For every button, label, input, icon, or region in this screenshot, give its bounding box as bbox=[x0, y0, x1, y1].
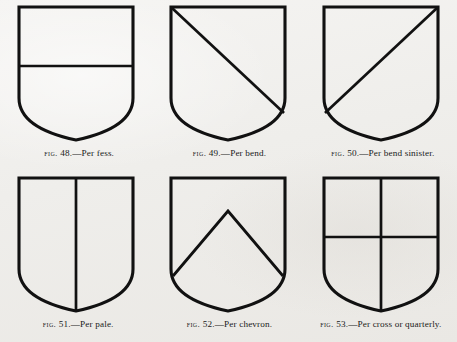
shield-per-bend-sinister-drawing bbox=[310, 0, 452, 147]
figure-51-number-block: 51.—Per pale. bbox=[56, 319, 113, 329]
figure-48-separator: .— bbox=[70, 148, 82, 158]
figure-52-caption: Fig. 52.—Per chevron. bbox=[185, 319, 273, 329]
figure-49-number: 49 bbox=[209, 148, 219, 158]
shield-per-pale-drawing bbox=[5, 171, 147, 318]
figure-51: Fig. 51.—Per pale. bbox=[0, 171, 152, 342]
figure-52-separator: .— bbox=[212, 319, 224, 329]
figure-49-name: Per bend. bbox=[230, 148, 266, 158]
figure-50-name: Per bend sinister. bbox=[369, 148, 435, 158]
figure-52-number: 52 bbox=[203, 319, 213, 329]
figure-53-separator: .— bbox=[346, 319, 358, 329]
figure-51-separator: .— bbox=[68, 319, 80, 329]
figure-51-number: 51 bbox=[59, 319, 69, 329]
figure-50: Fig. 50.—Per bend sinister. bbox=[305, 0, 457, 171]
figure-53-fig-word: Fig. bbox=[320, 319, 334, 329]
shield-per-bend bbox=[157, 0, 299, 147]
shield-per-chevron bbox=[157, 171, 299, 318]
shield-outline bbox=[19, 7, 133, 140]
figure-plate: Fig. 48.—Per fess. Fig. 49.—Per bend. Fi… bbox=[0, 0, 457, 342]
figure-50-number: 50 bbox=[347, 148, 357, 158]
figure-49: Fig. 49.—Per bend. bbox=[152, 0, 304, 171]
shield-per-cross-or-quarterly bbox=[310, 171, 452, 318]
figure-52: Fig. 52.—Per chevron. bbox=[152, 171, 304, 342]
figure-48-fig-word: Fig. bbox=[44, 148, 58, 158]
figure-53-number: 53 bbox=[336, 319, 346, 329]
shield-per-chevron-drawing bbox=[157, 171, 299, 318]
figure-48-number-block: 48.—Per fess. bbox=[58, 148, 114, 158]
figure-51-fig-word: Fig. bbox=[43, 319, 57, 329]
figure-48-caption: Fig. 48.—Per fess. bbox=[38, 148, 114, 158]
shield-per-fess bbox=[5, 0, 147, 147]
shield-outline bbox=[324, 7, 438, 140]
shield-per-fess-drawing bbox=[5, 0, 147, 147]
figure-52-fig-word: Fig. bbox=[187, 319, 201, 329]
figure-48: Fig. 48.—Per fess. bbox=[0, 0, 152, 171]
shield-per-bend-drawing bbox=[157, 0, 299, 147]
bend-partition-line bbox=[172, 8, 284, 113]
figure-49-separator: .— bbox=[218, 148, 230, 158]
shield-per-bend-sinister bbox=[310, 0, 452, 147]
figure-49-fig-word: Fig. bbox=[193, 148, 207, 158]
shield-per-pale bbox=[5, 171, 147, 318]
figure-53-name: Per cross or quarterly. bbox=[357, 319, 441, 329]
shield-per-cross-drawing bbox=[310, 171, 452, 318]
figure-49-number-block: 49.—Per bend. bbox=[206, 148, 266, 158]
figure-50-caption: Fig. 50.—Per bend sinister. bbox=[327, 148, 434, 158]
figure-52-number-block: 52.—Per chevron. bbox=[200, 319, 272, 329]
figure-48-number: 48 bbox=[60, 148, 70, 158]
figure-49-caption: Fig. 49.—Per bend. bbox=[191, 148, 266, 158]
shield-outline bbox=[171, 7, 285, 140]
chevron-partition-line bbox=[173, 211, 283, 276]
figure-53-caption: Fig. 53.—Per cross or quarterly. bbox=[320, 319, 441, 329]
figure-53-number-block: 53.—Per cross or quarterly. bbox=[334, 319, 442, 329]
figure-48-name: Per fess. bbox=[82, 148, 114, 158]
figure-52-name: Per chevron. bbox=[224, 319, 272, 329]
figure-51-caption: Fig. 51.—Per pale. bbox=[39, 319, 114, 329]
shield-outline bbox=[171, 178, 285, 311]
figure-50-fig-word: Fig. bbox=[331, 148, 345, 158]
figure-50-separator: .— bbox=[357, 148, 369, 158]
figure-50-number-block: 50.—Per bend sinister. bbox=[345, 148, 434, 158]
bend-sinister-partition-line bbox=[325, 8, 437, 113]
figure-51-name: Per pale. bbox=[80, 319, 114, 329]
figure-53: Fig. 53.—Per cross or quarterly. bbox=[305, 171, 457, 342]
